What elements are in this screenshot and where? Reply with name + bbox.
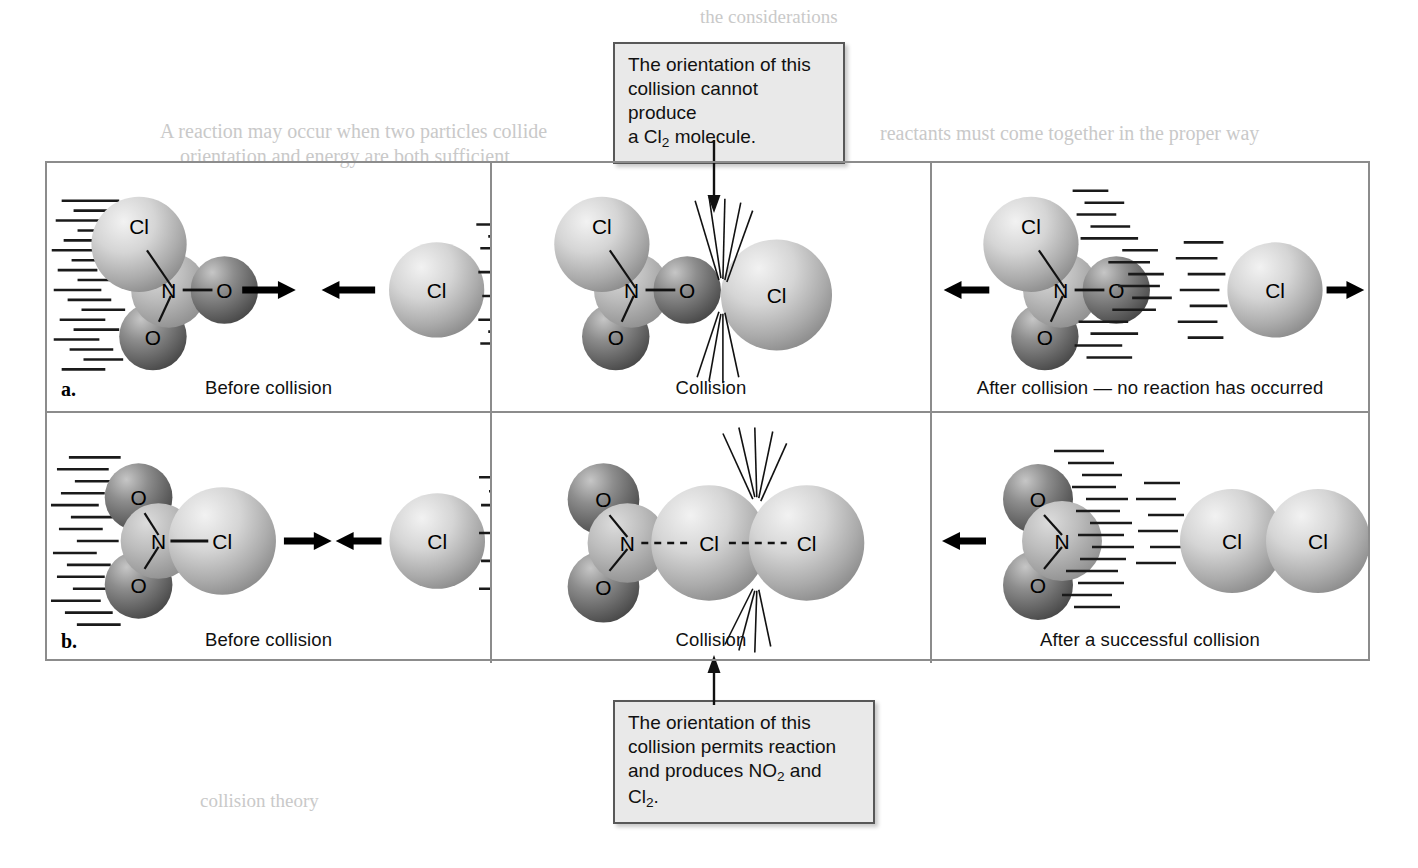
atom-label-o: O [595,576,611,599]
atom-chlorine [91,197,186,292]
molecule-stage-b-after: O O N [932,413,1368,663]
callout-top-line3-post: molecule. [669,126,756,147]
callout-top-line2: collision cannot produce [628,77,831,125]
direction-arrow-right [284,532,332,550]
panel-row-a-collision: Cl N O O C [492,163,932,411]
atom-label-o: O [1030,488,1046,511]
atom-label-n: N [151,530,166,553]
bleed-text-1: the considerations [700,6,838,28]
molecule-stage-b-collision: O O N Cl Cl [492,413,930,663]
row-b: O O N Cl Cl [47,413,1368,663]
panel-row-b-before: O O N Cl Cl [47,413,492,663]
direction-arrow-left [322,281,376,299]
molecule-diagram-b-before: O O N Cl Cl [47,413,490,663]
callout-bottom-line3-post: and [785,760,822,781]
molecule-diagram-a-collision: Cl N O O C [492,163,930,411]
callout-bottom-line4-sub: 2 [646,795,654,810]
atom-label-o: O [1037,326,1053,349]
atom-label-n: N [161,279,176,302]
callout-bottom-line3: and produces NO2 and [628,759,861,785]
callout-bottom-line4-post: . [654,786,659,807]
caption-row-a-before: Before collision [47,377,490,399]
direction-arrow-left [942,532,986,550]
motion-lines [479,477,492,588]
atom-label-n: N [1054,530,1069,553]
callout-no-reaction: The orientation of this collision cannot… [613,42,845,164]
atom-label-o: O [130,486,146,509]
atom-label-o: O [608,326,624,349]
caption-row-a-collision: Collision [492,377,930,399]
molecule-diagram-a-after: Cl N O O [932,163,1368,411]
callout-bottom-line4-pre: Cl [628,786,646,807]
callout-top-line1: The orientation of this [628,53,831,77]
atom-label-n: N [620,532,635,555]
atom-label-o: O [145,326,161,349]
atom-label-cl: Cl [427,279,447,302]
atom-label-cl: Cl [1222,530,1242,553]
atom-label-o: O [1030,574,1046,597]
atom-label-cl: Cl [767,284,787,307]
callout-bottom-line1: The orientation of this [628,711,861,735]
callout-bottom-line4: Cl2. [628,785,861,811]
callout-bottom-line3-pre: and produces NO [628,760,777,781]
molecule-stage-b-before: O O N Cl Cl [47,413,490,663]
caption-row-a-after: After collision — no reaction has occurr… [932,377,1368,399]
molecule-stage-a-collision: Cl N O O C [492,163,930,411]
callout-successful-reaction: The orientation of this collision permit… [613,700,875,824]
atom-label-o: O [679,279,695,302]
atom-label-o: O [130,574,146,597]
callout-bottom-line3-sub: 2 [777,769,785,784]
atom-label-cl: Cl [1265,279,1285,302]
bleed-text-2: A reaction may occur when two particles … [160,120,547,143]
atom-chlorine [983,197,1078,292]
molecule-diagram-a-before: Cl N O O Cl [47,163,490,411]
atom-label-cl: Cl [427,530,447,553]
figure-frame: Cl N O O Cl [45,161,1370,661]
molecule-stage-a-after: Cl N O O [932,163,1368,411]
callout-top-line3: a Cl2 molecule. [628,125,831,151]
direction-arrow-left [336,532,382,550]
bleed-text-4: reactants must come together in the prop… [880,122,1259,145]
panel-row-a-after: Cl N O O [932,163,1368,411]
caption-row-b-after: After a successful collision [932,629,1368,651]
row-a: Cl N O O Cl [47,163,1368,413]
panel-row-b-after: O O N [932,413,1368,663]
panel-row-b-collision: O O N Cl Cl [492,413,932,663]
direction-arrow-left [944,281,990,299]
atom-label-cl: Cl [699,532,719,555]
atom-label-o: O [216,279,232,302]
atom-chlorine [554,197,649,292]
molecule-stage-a-before: Cl N O O Cl [47,163,490,411]
molecule-diagram-b-collision: O O N Cl Cl [492,413,930,663]
panel-row-a-before: Cl N O O Cl [47,163,492,411]
direction-arrow-right [1327,281,1365,299]
molecule-diagram-b-after: O O N [932,413,1368,663]
caption-row-b-collision: Collision [492,629,930,651]
atom-label-cl: Cl [1308,530,1328,553]
atom-label-o: O [595,488,611,511]
caption-row-b-before: Before collision [47,629,490,651]
bleed-text-5: collision theory [200,790,319,812]
atom-label-n: N [1053,279,1068,302]
atom-label-cl: Cl [212,530,232,553]
atom-label-cl: Cl [1021,215,1041,238]
atom-label-cl: Cl [129,215,149,238]
atom-label-cl: Cl [592,215,612,238]
callout-bottom-line2: collision permits reaction [628,735,861,759]
atom-label-n: N [624,279,639,302]
callout-top-line3-pre: a Cl [628,126,662,147]
atom-label-cl: Cl [797,532,817,555]
atom-label-o: O [1108,279,1124,302]
